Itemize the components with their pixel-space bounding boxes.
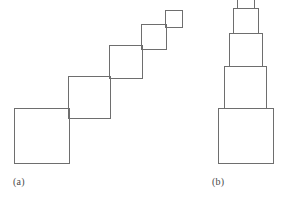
panel-a-caption: (a) — [13, 176, 25, 187]
panel-a-square-3 — [110, 46, 143, 79]
panel-a-square-1-largest — [15, 109, 70, 164]
panel-b-caption: (b) — [212, 176, 224, 187]
panel-a-square-2 — [69, 77, 111, 119]
panel-b-square-2 — [225, 67, 267, 109]
panel-a-square-5-smallest — [166, 11, 183, 28]
panel-a-squares — [15, 11, 183, 164]
figure-drawing-canvas — [0, 0, 286, 198]
panel-b-square-4 — [234, 9, 259, 34]
panel-b-square-5-smallest — [238, 0, 255, 9]
panel-b-square-1-largest — [219, 109, 274, 164]
panel-b-squares — [219, 0, 274, 164]
panel-a-square-4 — [142, 25, 167, 50]
figure-container: (a) (b) — [0, 0, 286, 198]
panel-b-square-3 — [230, 34, 263, 67]
